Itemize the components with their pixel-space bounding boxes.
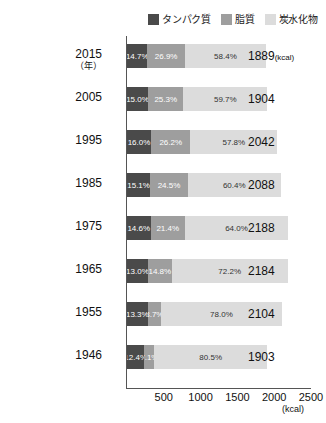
bar-segment-label: 78.0% <box>210 310 233 319</box>
year-value: 1955 <box>75 305 102 319</box>
bar-segment-fat: 21.4% <box>151 216 185 240</box>
legend-label-fat: 脂質 <box>235 14 255 25</box>
stacked-bar: 14.7%26.9%58.4% <box>127 44 266 68</box>
stacked-bar-chart: タンパク質 脂質 炭水化物 2015（年）14.7%26.9%58.4%1889… <box>0 0 326 423</box>
legend-item-protein: タンパク質 <box>148 14 211 25</box>
row-year-label: 1965 <box>18 263 102 276</box>
row-year-label: 1975 <box>18 220 102 233</box>
bar-segment-fat: 26.2% <box>151 130 190 154</box>
total-value: 2042 <box>248 135 275 149</box>
total-value: 2104 <box>248 307 275 321</box>
bar-segment-label: 64.0% <box>225 224 248 233</box>
x-axis-tick-label: 1500 <box>217 391 257 403</box>
legend-swatch-protein <box>148 14 159 25</box>
total-unit-label: (kcal) <box>275 53 295 62</box>
bar-segment-protein: 14.6% <box>127 216 151 240</box>
bar-segment-label: 26.9% <box>155 52 178 61</box>
row-year-label: 2015（年） <box>18 48 102 72</box>
row-year-label: 1946 <box>18 349 102 362</box>
legend-swatch-fat <box>221 14 232 25</box>
bar-segment-label: 13.0% <box>127 267 148 276</box>
bar-segment-protein: 15.1% <box>127 173 150 197</box>
bar-segment-label: 26.2% <box>159 138 182 147</box>
bar-segment-label: 25.3% <box>154 95 177 104</box>
legend-label-carb: 炭水化物 <box>279 14 318 25</box>
legend-swatch-carb <box>265 14 276 25</box>
row-total-kcal: 2088 <box>248 173 322 197</box>
x-axis-unit: (kcal) <box>282 404 304 414</box>
row-total-kcal: 2184 <box>248 259 322 283</box>
year-value: 1975 <box>75 219 102 233</box>
x-axis-tick-label: 1000 <box>181 391 221 403</box>
row-total-kcal: 2188 <box>248 216 322 240</box>
legend-label-protein: タンパク質 <box>162 14 211 25</box>
year-value: 1965 <box>75 262 102 276</box>
x-axis-line <box>126 388 311 389</box>
bar-segment-label: 24.5% <box>158 181 181 190</box>
year-value: 1946 <box>75 348 102 362</box>
bar-segment-fat: 7.1% <box>144 345 154 369</box>
bar-segment-protein: 16.0% <box>127 130 151 154</box>
bar-segment-label: 15.0% <box>127 95 148 104</box>
row-total-kcal: 1904 <box>248 87 322 111</box>
bar-segment-label: 15.1% <box>127 181 150 190</box>
year-value: 2005 <box>75 90 102 104</box>
year-value: 2015 <box>75 47 102 61</box>
row-year-label: 1995 <box>18 134 102 147</box>
bar-segment-label: 14.8% <box>148 267 171 276</box>
legend-item-carb: 炭水化物 <box>265 14 318 25</box>
x-axis-tick-label: 2000 <box>254 391 294 403</box>
bar-segment-fat: 25.3% <box>148 87 183 111</box>
bar-segment-label: 72.2% <box>218 267 241 276</box>
bar-segment-fat: 14.8% <box>148 259 172 283</box>
bar-segment-label: 8.7% <box>148 310 161 319</box>
chart-legend: タンパク質 脂質 炭水化物 <box>148 12 318 26</box>
bar-segment-label: 16.0% <box>128 138 151 147</box>
bar-segment-label: 14.7% <box>127 52 147 61</box>
row-total-kcal: 1903 <box>248 345 322 369</box>
bar-segment-label: 57.8% <box>222 138 245 147</box>
year-unit-label: （年） <box>18 61 102 72</box>
bar-segment-label: 7.1% <box>144 353 154 362</box>
stacked-bar: 15.0%25.3%59.7% <box>127 87 267 111</box>
total-value: 1889 <box>248 49 275 63</box>
total-value: 2188 <box>248 221 275 235</box>
row-year-label: 1985 <box>18 177 102 190</box>
row-year-label: 2005 <box>18 91 102 104</box>
row-total-kcal: 1889(kcal) <box>248 44 322 70</box>
x-axis-tick-label: 2500 <box>291 391 326 403</box>
bar-segment-label: 21.4% <box>156 224 179 233</box>
bar-segment-protein: 14.7% <box>127 44 147 68</box>
row-total-kcal: 2042 <box>248 130 322 154</box>
bar-segment-label: 58.4% <box>214 52 237 61</box>
bar-segment-label: 14.6% <box>127 224 150 233</box>
bar-segment-protein: 15.0% <box>127 87 148 111</box>
bar-segment-label: 60.4% <box>223 181 246 190</box>
bar-segment-protein: 13.0% <box>127 259 148 283</box>
legend-item-fat: 脂質 <box>221 14 255 25</box>
total-value: 1904 <box>248 92 275 106</box>
row-year-label: 1955 <box>18 306 102 319</box>
bar-segment-label: 12.4% <box>127 353 144 362</box>
bar-segment-label: 59.7% <box>214 95 237 104</box>
bar-segment-protein: 12.4% <box>127 345 144 369</box>
bar-segment-fat: 26.9% <box>147 44 184 68</box>
total-value: 2184 <box>248 264 275 278</box>
stacked-bar: 12.4%7.1%80.5% <box>127 345 267 369</box>
row-total-kcal: 2104 <box>248 302 322 326</box>
bar-segment-fat: 8.7% <box>148 302 161 326</box>
total-value: 2088 <box>248 178 275 192</box>
x-axis-tick-label: 500 <box>144 391 184 403</box>
year-value: 1985 <box>75 176 102 190</box>
bar-segment-fat: 24.5% <box>150 173 188 197</box>
bar-segment-label: 80.5% <box>199 353 222 362</box>
bar-segment-protein: 13.3% <box>127 302 148 326</box>
total-value: 1903 <box>248 350 275 364</box>
year-value: 1995 <box>75 133 102 147</box>
bar-segment-label: 13.3% <box>127 310 148 319</box>
